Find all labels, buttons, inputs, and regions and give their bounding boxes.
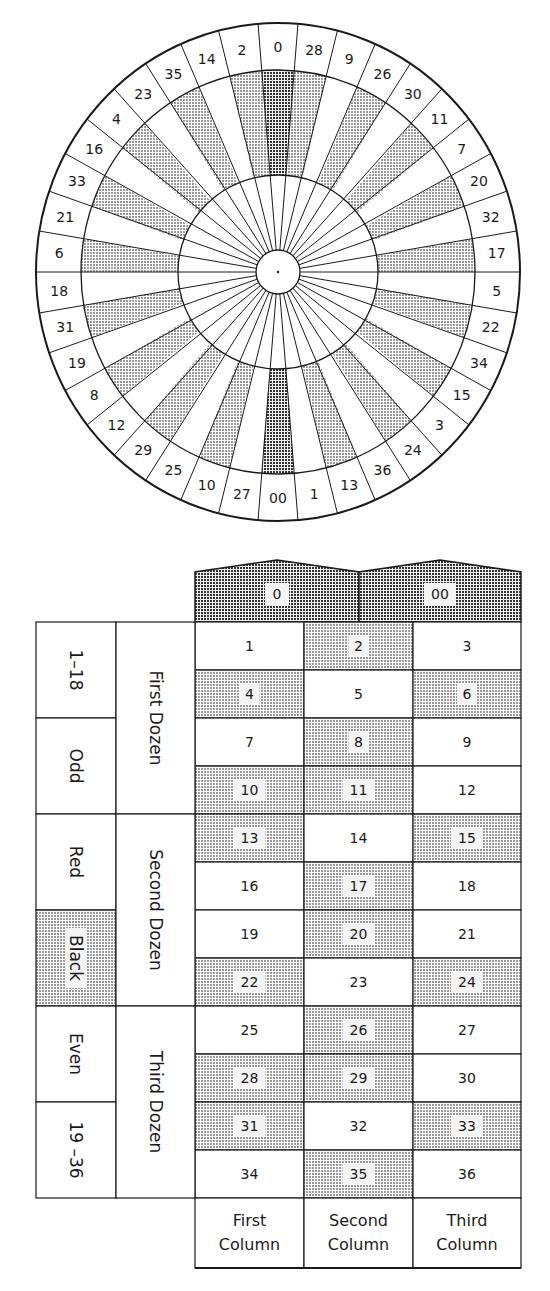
dozen-bets: First DozenSecond DozenThird Dozen [116, 622, 195, 1198]
number-label: 22 [241, 974, 259, 990]
number-cell-13[interactable]: 13 [195, 814, 304, 862]
number-label: 25 [241, 1022, 259, 1038]
number-label: 8 [354, 734, 363, 750]
outside-bet-label: Black [66, 935, 86, 981]
zero-bet-00[interactable]: 00 [359, 560, 521, 622]
number-label: 7 [245, 734, 254, 750]
number-cell-1[interactable]: 1 [195, 622, 304, 670]
zero-bet-0[interactable]: 0 [195, 560, 359, 622]
zero-label: 0 [273, 586, 282, 602]
number-label: 36 [458, 1166, 476, 1182]
number-label: 19 [241, 926, 259, 942]
number-cell-15[interactable]: 15 [413, 814, 521, 862]
number-label: 33 [458, 1118, 476, 1134]
number-label: 11 [350, 782, 368, 798]
number-cell-2[interactable]: 2 [304, 622, 413, 670]
column-bets: FirstColumnSecondColumnThirdColumn [195, 1198, 521, 1268]
number-label: 15 [458, 830, 476, 846]
number-cell-12[interactable]: 12 [413, 766, 521, 814]
number-label: 1 [245, 638, 254, 654]
number-cell-22[interactable]: 22 [195, 958, 304, 1006]
number-cell-7[interactable]: 7 [195, 718, 304, 766]
outside-bet-label: Even [66, 1033, 86, 1075]
number-cell-30[interactable]: 30 [413, 1054, 521, 1102]
number-label: 6 [463, 686, 472, 702]
number-label: 2 [354, 638, 363, 654]
number-label: 34 [241, 1166, 259, 1182]
number-label: 27 [458, 1022, 476, 1038]
number-cell-29[interactable]: 29 [304, 1054, 413, 1102]
number-cell-20[interactable]: 20 [304, 910, 413, 958]
number-cell-16[interactable]: 16 [195, 862, 304, 910]
number-grid: 1234567891011121314151617181920212223242… [195, 622, 521, 1198]
number-cell-24[interactable]: 24 [413, 958, 521, 1006]
number-cell-9[interactable]: 9 [413, 718, 521, 766]
column-bet-1[interactable]: FirstColumn [195, 1198, 304, 1268]
column-bet-2[interactable]: SecondColumn [304, 1198, 413, 1268]
roulette-betting-layout: 0 00 12345678910111213141516171819202122… [0, 0, 550, 1291]
number-label: 9 [463, 734, 472, 750]
number-label: 28 [241, 1070, 259, 1086]
number-cell-35[interactable]: 35 [304, 1150, 413, 1198]
number-cell-18[interactable]: 18 [413, 862, 521, 910]
dozen-label: First Dozen [146, 671, 166, 766]
number-cell-36[interactable]: 36 [413, 1150, 521, 1198]
dozen-bet-2[interactable]: Second Dozen [116, 814, 195, 1006]
number-label: 10 [241, 782, 259, 798]
number-label: 20 [350, 926, 368, 942]
outside-bet-label: 1–18 [66, 650, 86, 691]
outside-bet-red[interactable]: Red [36, 814, 116, 910]
number-cell-8[interactable]: 8 [304, 718, 413, 766]
number-cell-33[interactable]: 33 [413, 1102, 521, 1150]
column-label-line2: Column [328, 1235, 389, 1254]
number-cell-5[interactable]: 5 [304, 670, 413, 718]
number-cell-10[interactable]: 10 [195, 766, 304, 814]
number-label: 3 [463, 638, 472, 654]
number-cell-28[interactable]: 28 [195, 1054, 304, 1102]
number-cell-23[interactable]: 23 [304, 958, 413, 1006]
number-cell-6[interactable]: 6 [413, 670, 521, 718]
dozen-label: Second Dozen [146, 849, 166, 971]
number-label: 30 [458, 1070, 476, 1086]
column-label-line2: Column [436, 1235, 497, 1254]
column-label-line1: Second [329, 1211, 388, 1230]
number-label: 16 [241, 878, 259, 894]
outside-bet-19-36[interactable]: 19 –36 [36, 1102, 116, 1198]
number-cell-17[interactable]: 17 [304, 862, 413, 910]
number-label: 21 [458, 926, 476, 942]
number-label: 18 [458, 878, 476, 894]
number-label: 14 [350, 830, 368, 846]
number-cell-21[interactable]: 21 [413, 910, 521, 958]
outside-bet-even[interactable]: Even [36, 1006, 116, 1102]
number-cell-3[interactable]: 3 [413, 622, 521, 670]
dozen-bet-1[interactable]: First Dozen [116, 622, 195, 814]
number-label: 5 [354, 686, 363, 702]
outside-bet-black[interactable]: Black [36, 910, 116, 1006]
outside-bet-1-18[interactable]: 1–18 [36, 622, 116, 718]
number-cell-14[interactable]: 14 [304, 814, 413, 862]
number-label: 23 [350, 974, 368, 990]
outside-bet-label: Odd [66, 749, 86, 784]
number-cell-34[interactable]: 34 [195, 1150, 304, 1198]
outside-bet-odd[interactable]: Odd [36, 718, 116, 814]
outside-bets: 1–18OddRedBlackEven19 –36 [36, 622, 116, 1198]
column-bet-3[interactable]: ThirdColumn [413, 1198, 521, 1268]
dozen-label: Third Dozen [146, 1050, 166, 1153]
number-cell-26[interactable]: 26 [304, 1006, 413, 1054]
number-cell-4[interactable]: 4 [195, 670, 304, 718]
outside-bet-label: Red [66, 846, 86, 878]
number-cell-25[interactable]: 25 [195, 1006, 304, 1054]
number-cell-19[interactable]: 19 [195, 910, 304, 958]
number-cell-27[interactable]: 27 [413, 1006, 521, 1054]
number-label: 26 [350, 1022, 368, 1038]
number-label: 29 [350, 1070, 368, 1086]
number-cell-31[interactable]: 31 [195, 1102, 304, 1150]
number-label: 24 [458, 974, 476, 990]
number-cell-32[interactable]: 32 [304, 1102, 413, 1150]
outside-bet-label: 19 –36 [66, 1121, 86, 1178]
number-label: 13 [241, 830, 259, 846]
number-label: 17 [350, 878, 368, 894]
dozen-bet-3[interactable]: Third Dozen [116, 1006, 195, 1198]
number-cell-11[interactable]: 11 [304, 766, 413, 814]
number-label: 35 [350, 1166, 368, 1182]
